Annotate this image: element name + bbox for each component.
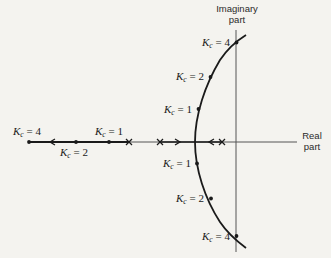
upper-locus-branch	[195, 35, 246, 142]
root-locus-plot	[0, 0, 331, 258]
point-real-k4	[27, 140, 31, 144]
gain-label-upper-k1: Kc = 1	[164, 104, 192, 118]
gain-label-real-k4: Kc = 4	[13, 126, 41, 140]
point-upper-k1	[197, 107, 201, 111]
point-lower-k2	[209, 197, 213, 201]
real-axis-label: Real part	[298, 130, 326, 152]
gain-label-real-k1: Kc = 1	[95, 126, 123, 140]
point-lower-k4	[235, 234, 239, 238]
real-label-line1: Real	[298, 130, 326, 141]
gain-label-upper-k4: Kc = 4	[202, 37, 230, 51]
imaginary-axis-label: Imaginary part	[213, 3, 261, 25]
imaginary-label-line2: part	[213, 14, 261, 25]
gain-label-lower-k4: Kc = 4	[202, 231, 230, 245]
point-upper-k2	[209, 75, 213, 79]
gain-label-real-k2: Kc = 2	[60, 147, 88, 161]
point-lower-k1	[195, 162, 199, 166]
gain-point-markers	[27, 41, 238, 238]
gain-label-lower-k2: Kc = 2	[176, 193, 204, 207]
point-upper-k4	[235, 41, 239, 45]
gain-label-lower-k1: Kc = 1	[163, 158, 191, 172]
gain-label-upper-k2: Kc = 2	[176, 71, 204, 85]
point-real-k2	[74, 140, 78, 144]
imaginary-label-line1: Imaginary	[213, 3, 261, 14]
real-label-line2: part	[298, 141, 326, 152]
root-locus-diagram: Imaginary part Real part Kc = 4 Kc = 2 K…	[0, 0, 331, 258]
point-real-k1	[107, 140, 111, 144]
